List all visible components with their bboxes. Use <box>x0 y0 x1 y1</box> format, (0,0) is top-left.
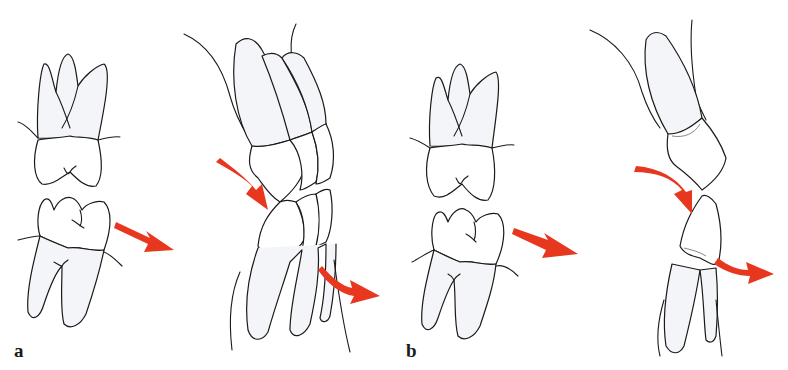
lower-molar-roots-a <box>28 236 104 327</box>
arrow-b-upper <box>634 166 692 214</box>
panel-label-a: a <box>14 340 24 362</box>
upper-molar-roots-a <box>37 54 107 140</box>
panel-label-b: b <box>406 340 417 362</box>
dental-figure: a b <box>0 0 788 370</box>
figure-canvas <box>0 0 788 370</box>
lower-roots-b <box>664 264 700 353</box>
panel-a-molars <box>18 54 122 327</box>
panel-b-lateral-dentition <box>590 20 726 356</box>
panel-b-molars <box>410 64 518 339</box>
upper-molar-crown-a <box>35 136 102 186</box>
arrow-b-molar <box>512 228 578 258</box>
arrow-b-lower <box>714 258 774 284</box>
arrow-a-molar <box>114 222 174 252</box>
panel-a-lateral-dentition <box>184 24 350 352</box>
upper-molar-crown-b <box>427 144 495 200</box>
upper-molar-roots-b <box>429 64 498 148</box>
lower-roots-a <box>247 244 336 339</box>
